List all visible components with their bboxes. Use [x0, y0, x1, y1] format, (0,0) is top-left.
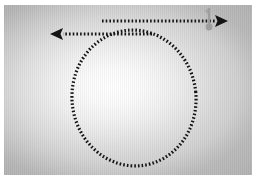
arrow-right-head-icon: [215, 15, 228, 27]
pin-base-dot: [206, 24, 213, 31]
scene-plate: [2, 3, 254, 177]
arrow-left-head-icon: [50, 28, 63, 40]
dotted-circular-path: [65, 24, 203, 172]
figure-root: [0, 0, 261, 181]
trajectory-overlay: [2, 3, 254, 177]
gray-pin-marker-icon: [205, 8, 213, 30]
